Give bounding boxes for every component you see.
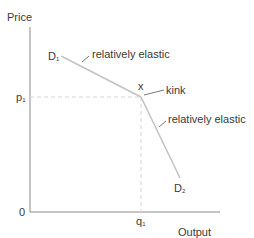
kink-point-label: x [138, 80, 144, 92]
lower-elastic-annotation: relatively elastic [168, 113, 246, 125]
x-axis-label: Output [178, 226, 211, 238]
demand-upper-label: D1 [48, 50, 59, 65]
leader-lower-elastic [159, 121, 166, 127]
leader-upper-elastic [82, 56, 89, 62]
leader-kink [144, 90, 164, 95]
quantity-level-label: q1 [136, 215, 145, 230]
origin-label: 0 [19, 206, 25, 218]
upper-elastic-annotation: relatively elastic [92, 48, 170, 60]
kink-annotation: kink [166, 84, 186, 96]
demand-lower-label: D2 [174, 182, 185, 197]
demand-curve-lower [141, 97, 180, 178]
demand-curve-upper [61, 56, 141, 97]
y-axis-label: Price [7, 11, 32, 23]
price-level-label: p1 [16, 91, 25, 106]
